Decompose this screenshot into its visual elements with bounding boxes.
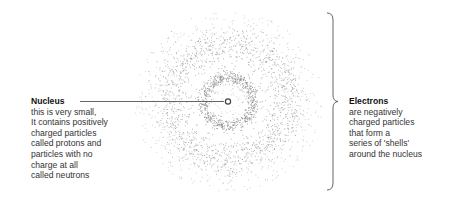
electrons-line: around the nucleus	[349, 149, 422, 160]
electron-brace	[327, 13, 338, 190]
nucleus-label: Nucleus this is very small, It contains …	[31, 96, 108, 181]
electrons-title: Electrons	[349, 96, 422, 107]
electrons-line: charged particles	[349, 117, 422, 128]
electrons-label: Electrons are negatively charged particl…	[349, 96, 422, 160]
electrons-line: are negatively	[349, 107, 422, 118]
electrons-line: that form a	[349, 128, 422, 139]
nucleus-line: this is very small,	[31, 107, 108, 118]
nucleus-line: charge at all	[31, 160, 108, 171]
nucleus-title: Nucleus	[31, 96, 108, 107]
nucleus-line: called neutrons	[31, 170, 108, 181]
electrons-line: series of 'shells'	[349, 138, 422, 149]
nucleus-line: particles with no	[31, 149, 108, 160]
nucleus-line: called protons and	[31, 138, 108, 149]
nucleus-line: charged particles	[31, 128, 108, 139]
nucleus-line: It contains positively	[31, 117, 108, 128]
nucleus-icon	[225, 99, 230, 104]
